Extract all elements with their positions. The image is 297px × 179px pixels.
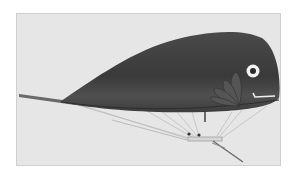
gondola xyxy=(187,132,243,162)
airship-illustration xyxy=(17,14,281,166)
eye xyxy=(247,65,260,78)
photograph: Vintage monochrome photograph of a whale… xyxy=(16,13,281,166)
drop-rope xyxy=(204,112,206,122)
